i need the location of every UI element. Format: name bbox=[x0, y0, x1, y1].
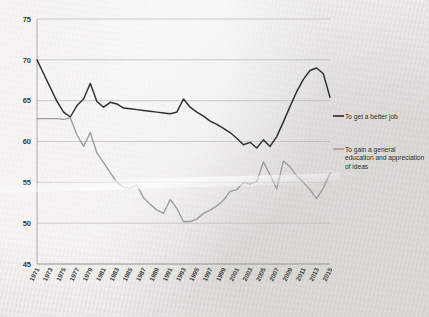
x-tick-2013: 2013 bbox=[308, 266, 321, 282]
y-tick-60: 60 bbox=[23, 137, 31, 146]
x-tick-1977: 1977 bbox=[68, 266, 81, 282]
line-chart-figure: 45505560657075 1971197319751977197919811… bbox=[0, 0, 429, 317]
x-tick-1993: 1993 bbox=[174, 266, 187, 282]
y-tick-70: 70 bbox=[23, 56, 31, 65]
y-tick-65: 65 bbox=[23, 96, 31, 105]
x-tick-1983: 1983 bbox=[108, 266, 121, 282]
x-tick-1975: 1975 bbox=[55, 266, 68, 282]
x-tick-1989: 1989 bbox=[148, 266, 161, 282]
y-tick-45: 45 bbox=[23, 260, 31, 269]
y-tick-55: 55 bbox=[23, 178, 31, 187]
x-tick-1999: 1999 bbox=[214, 266, 227, 282]
series-line-general-education bbox=[37, 118, 330, 222]
x-tick-2011: 2011 bbox=[294, 266, 307, 282]
x-tick-1973: 1973 bbox=[41, 266, 54, 282]
x-tick-1987: 1987 bbox=[134, 266, 147, 282]
x-tick-1995: 1995 bbox=[188, 266, 201, 282]
x-tick-2007: 2007 bbox=[268, 266, 281, 282]
x-tick-2009: 2009 bbox=[281, 266, 294, 282]
x-tick-1979: 1979 bbox=[81, 266, 94, 282]
y-axis-tick-labels: 45505560657075 bbox=[23, 15, 31, 269]
series-line-better-job bbox=[37, 60, 330, 148]
x-tick-1985: 1985 bbox=[121, 266, 134, 282]
legend-label-general-education: To gain a general education and apprecia… bbox=[345, 146, 425, 171]
x-tick-2003: 2003 bbox=[241, 266, 254, 282]
x-tick-1981: 1981 bbox=[94, 266, 107, 282]
x-tick-2015: 2015 bbox=[321, 266, 334, 282]
x-axis-tick-labels: 1971197319751977197919811983198519871989… bbox=[28, 266, 334, 282]
x-tick-2001: 2001 bbox=[228, 266, 241, 282]
y-tick-75: 75 bbox=[23, 15, 31, 24]
legend-label-better-job: To get a better job bbox=[345, 113, 425, 121]
x-tick-1991: 1991 bbox=[161, 266, 174, 282]
y-tick-50: 50 bbox=[23, 219, 31, 228]
x-tick-2005: 2005 bbox=[254, 266, 267, 282]
x-tick-1997: 1997 bbox=[201, 266, 214, 282]
